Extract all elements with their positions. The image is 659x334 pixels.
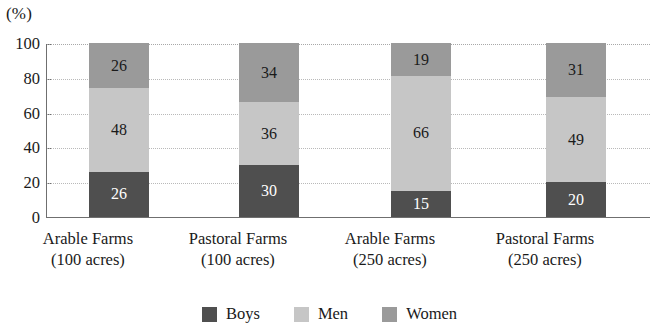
legend-swatch-icon-women bbox=[382, 307, 397, 322]
legend: Boys Men Women bbox=[0, 306, 659, 322]
category-label-line2: (100 acres) bbox=[8, 249, 168, 270]
category-label-pastoral-100: Pastoral Farms (100 acres) bbox=[158, 228, 318, 270]
category-label-line1: Arable Farms bbox=[345, 229, 435, 248]
segment-boys: 30 bbox=[239, 165, 299, 217]
legend-label-men: Men bbox=[318, 306, 348, 322]
legend-swatch-icon-boys bbox=[202, 307, 217, 322]
y-tick-20: 20 bbox=[0, 175, 40, 191]
bar-arable-250[interactable]: 19 66 15 bbox=[391, 43, 451, 217]
y-axis-unit-label: (%) bbox=[6, 4, 32, 24]
segment-boys: 15 bbox=[391, 191, 451, 217]
legend-item-men[interactable]: Men bbox=[294, 306, 348, 322]
bar-arable-100[interactable]: 26 48 26 bbox=[89, 43, 149, 217]
segment-women: 34 bbox=[239, 43, 299, 102]
category-label-line1: Pastoral Farms bbox=[496, 229, 595, 248]
legend-label-women: Women bbox=[406, 306, 457, 322]
plot-area: 26 48 26 34 36 30 19 66 15 31 49 20 bbox=[46, 44, 650, 218]
y-tick-100: 100 bbox=[0, 36, 40, 52]
bar-pastoral-100[interactable]: 34 36 30 bbox=[239, 43, 299, 217]
segment-men: 36 bbox=[239, 102, 299, 165]
legend-label-boys: Boys bbox=[226, 306, 260, 322]
segment-women: 31 bbox=[546, 43, 606, 97]
category-label-arable-100: Arable Farms (100 acres) bbox=[8, 228, 168, 270]
y-axis-tick-labels: 100 80 60 40 20 0 bbox=[0, 44, 40, 218]
y-tick-60: 60 bbox=[0, 106, 40, 122]
category-label-line2: (250 acres) bbox=[310, 249, 470, 270]
category-label-arable-250: Arable Farms (250 acres) bbox=[310, 228, 470, 270]
y-tick-80: 80 bbox=[0, 71, 40, 87]
segment-men: 66 bbox=[391, 76, 451, 191]
legend-item-women[interactable]: Women bbox=[382, 306, 457, 322]
segment-boys: 26 bbox=[89, 172, 149, 217]
segment-men: 49 bbox=[546, 97, 606, 182]
category-label-pastoral-250: Pastoral Farms (250 acres) bbox=[465, 228, 625, 270]
y-tick-0: 0 bbox=[0, 210, 40, 226]
category-label-line2: (250 acres) bbox=[465, 249, 625, 270]
stacked-bar-chart: (%) 100 80 60 40 20 0 26 48 26 34 36 30 … bbox=[0, 0, 659, 334]
category-label-line1: Pastoral Farms bbox=[189, 229, 288, 248]
y-tick-40: 40 bbox=[0, 140, 40, 156]
segment-women: 26 bbox=[89, 43, 149, 88]
legend-item-boys[interactable]: Boys bbox=[202, 306, 260, 322]
segment-women: 19 bbox=[391, 43, 451, 76]
segment-boys: 20 bbox=[546, 182, 606, 217]
segment-men: 48 bbox=[89, 88, 149, 172]
category-label-line2: (100 acres) bbox=[158, 249, 318, 270]
bar-pastoral-250[interactable]: 31 49 20 bbox=[546, 43, 606, 217]
legend-swatch-icon-men bbox=[294, 307, 309, 322]
category-label-line1: Arable Farms bbox=[43, 229, 133, 248]
